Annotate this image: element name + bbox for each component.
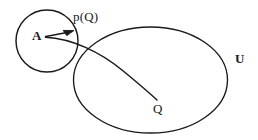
diagram-svg xyxy=(0,0,258,140)
projection-point-label: p(Q) xyxy=(73,10,98,23)
universe-U-label: U xyxy=(235,52,245,65)
projection-arrow-head xyxy=(63,30,73,35)
point-Q-label: Q xyxy=(153,102,163,115)
figure-canvas: A p(Q) Q U xyxy=(0,0,258,140)
universe-U-ellipse xyxy=(74,27,228,133)
set-A-label: A xyxy=(32,29,42,42)
